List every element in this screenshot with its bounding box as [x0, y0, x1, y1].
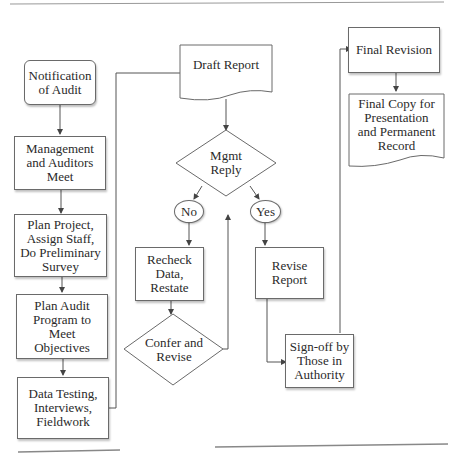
node-confer: Confer and Revise [138, 334, 210, 366]
node-no-label: No [181, 205, 197, 219]
node-plan-program-label: Plan Audit Program to Meet Objectives [33, 299, 91, 355]
node-final-copy-label: Final Copy for Presentation and Permanen… [358, 97, 436, 153]
bottom-rule-left [18, 450, 120, 452]
node-final-revision: Final Revision [348, 27, 440, 73]
node-notification: Notification of Audit [24, 60, 96, 105]
node-mgmt-reply: Mgmt Reply [196, 147, 256, 179]
node-plan-program: Plan Audit Program to Meet Objectives [16, 294, 108, 359]
node-signoff-label: Sign-off by Those in Authority [290, 340, 349, 382]
node-yes: Yes [250, 200, 281, 223]
node-final-revision-label: Final Revision [356, 43, 432, 57]
node-no: No [174, 200, 204, 223]
node-revise-report: Revise Report [255, 247, 324, 299]
node-notification-label: Notification of Audit [29, 69, 92, 97]
node-draft-report-label: Draft Report [193, 58, 259, 72]
node-draft-report: Draft Report [180, 45, 272, 85]
node-plan-project-label: Plan Project, Assign Staff, Do Prelimina… [20, 218, 101, 274]
node-recheck-label: Recheck Data, Restate [147, 253, 192, 295]
node-yes-label: Yes [256, 205, 275, 219]
node-data-testing-label: Data Testing, Interviews, Fieldwork [29, 387, 98, 429]
node-management-meet-label: Management and Auditors Meet [26, 142, 94, 184]
node-confer-label: Confer and Revise [145, 336, 203, 364]
node-recheck: Recheck Data, Restate [135, 247, 204, 301]
top-rule [10, 2, 444, 4]
node-mgmt-reply-label: Mgmt Reply [210, 149, 242, 177]
node-management-meet: Management and Auditors Meet [14, 136, 106, 190]
bottom-rule-right [215, 444, 448, 447]
node-revise-report-label: Revise Report [272, 259, 307, 287]
node-signoff: Sign-off by Those in Authority [285, 334, 354, 388]
node-final-copy: Final Copy for Presentation and Permanen… [349, 96, 444, 154]
node-plan-project: Plan Project, Assign Staff, Do Prelimina… [14, 214, 107, 277]
node-data-testing: Data Testing, Interviews, Fieldwork [17, 377, 109, 439]
